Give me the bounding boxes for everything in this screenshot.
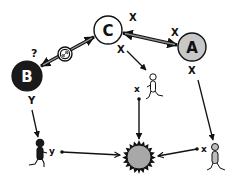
arrow-center-to-target xyxy=(137,97,141,139)
label-a-left-x: X xyxy=(171,27,179,38)
arrow-left-to-target xyxy=(60,150,120,155)
node-a-label: A xyxy=(186,39,198,57)
node-a: A xyxy=(178,33,206,61)
label-a-below-x: X xyxy=(188,65,196,76)
runner-center-icon xyxy=(146,74,163,99)
node-b: B xyxy=(12,61,42,91)
label-b-question: ? xyxy=(31,47,37,60)
label-b-below-y: Y xyxy=(27,95,36,106)
node-c: C xyxy=(94,16,122,44)
blocked-interaction-icon xyxy=(58,47,72,61)
arrow-b-to-left-runner xyxy=(32,110,38,137)
arrow-a-to-right-runner xyxy=(198,80,213,140)
link-c-a xyxy=(123,33,177,45)
runner-left-label: y xyxy=(49,146,55,156)
spiky-cell-target-icon xyxy=(122,140,156,174)
node-b-label: B xyxy=(21,68,32,86)
node-c-label: C xyxy=(102,22,113,40)
arrow-right-to-target xyxy=(158,147,199,156)
arrow-c-to-center-runner xyxy=(127,51,146,70)
runner-center-label: x xyxy=(134,84,140,94)
interaction-diagram: C A B X X X X ? Y x y x xyxy=(0,0,240,188)
runner-right-icon xyxy=(207,144,225,171)
runner-right-label: x xyxy=(201,144,207,154)
runner-left-icon xyxy=(29,139,47,167)
label-c-below-x: X xyxy=(117,44,125,55)
label-c-right-x: X xyxy=(129,12,137,23)
